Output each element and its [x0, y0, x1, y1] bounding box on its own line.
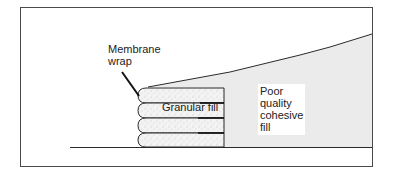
cohesive-label-line-2: quality: [260, 97, 302, 109]
membrane-label-line-1: Membrane: [108, 43, 161, 55]
granular-wraps: [138, 88, 224, 147]
membrane-leader-line: [122, 72, 139, 96]
cohesive-label-line-4: fill: [260, 121, 302, 133]
diagram-canvas: [0, 0, 394, 174]
granular-fill-label: Granular fill: [162, 101, 218, 113]
wrap-layer-3: [138, 118, 224, 133]
membrane-wrap-label: Membrane wrap: [108, 43, 161, 67]
cohesive-label-line-1: Poor: [260, 85, 302, 97]
wrap-layer-4: [138, 133, 224, 147]
membrane-label-line-2: wrap: [108, 55, 161, 67]
cohesive-fill-label: Poor quality cohesive fill: [258, 84, 305, 135]
cohesive-label-line-3: cohesive: [260, 109, 302, 121]
